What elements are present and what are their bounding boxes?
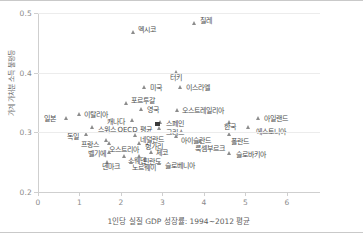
data-point-marker	[130, 118, 134, 122]
x-tick-label: 0	[28, 198, 48, 207]
x-tick-mark	[38, 192, 39, 196]
x-tick-label: 5	[235, 198, 255, 207]
x-tick-label: 2	[111, 198, 131, 207]
chart-figure: 가계 가처분 소득 불평등 0.20.30.40.5 0123456 칠레멕시코…	[0, 0, 363, 236]
data-point-marker	[256, 116, 260, 120]
x-tick-mark	[287, 192, 288, 196]
y-tick-label: 0.4	[8, 69, 32, 78]
top-divider	[0, 0, 363, 1]
data-point-label: 터키	[170, 74, 182, 82]
data-point-marker	[137, 154, 141, 158]
data-point-label: 칠레	[200, 17, 212, 25]
data-point-label: 슬로바키아	[236, 151, 266, 159]
data-point-marker	[192, 21, 196, 25]
data-point-marker	[178, 85, 182, 89]
data-point-marker	[227, 151, 231, 155]
data-point-marker	[124, 101, 128, 105]
data-point-label: 아일랜드	[264, 115, 288, 123]
data-point-label: 미국	[150, 84, 162, 92]
y-tick-label: 0.3	[8, 128, 32, 137]
x-axis-label: 1인당 실질 GDP 성장률: 1994~2012 평균	[38, 215, 320, 226]
data-point-label: 오스트레일리아	[182, 107, 224, 115]
gridline-horizontal	[38, 13, 320, 14]
data-point-label: 룩셈부르크	[195, 145, 225, 153]
gridline-horizontal	[38, 132, 320, 133]
y-tick-label: 0.2	[8, 188, 32, 197]
x-tick-mark	[79, 192, 80, 196]
data-point-label: 영국	[147, 106, 159, 114]
data-point-marker	[175, 108, 179, 112]
data-point-marker	[90, 125, 94, 129]
x-tick-mark	[121, 192, 122, 196]
data-point-label: 이탈리아	[84, 111, 108, 119]
data-point-marker	[137, 141, 141, 145]
data-point-label: 폴란드	[231, 138, 249, 146]
x-tick-label: 1	[69, 198, 89, 207]
x-tick-label: 4	[194, 198, 214, 207]
x-tick-label: 6	[277, 198, 297, 207]
data-point-label: 체코	[156, 149, 168, 157]
data-point-marker	[157, 126, 161, 130]
data-point-marker	[122, 154, 126, 158]
x-tick-mark	[245, 192, 246, 196]
data-point-marker	[131, 30, 135, 34]
gridline-horizontal	[38, 73, 320, 74]
data-point-label: 벨기에	[88, 150, 106, 158]
data-point-marker	[133, 133, 137, 137]
data-point-label: 덴마크	[102, 163, 120, 171]
data-point-label: 프랑스	[81, 141, 99, 149]
data-point-label: 이스라엘	[186, 84, 210, 92]
data-point-marker	[64, 116, 68, 120]
data-point-label: 스페인	[166, 120, 184, 128]
plot-area: 칠레멕시코터키미국이스라엘포르투갈영국오스트레일리아이탈리아일본아일랜드한국캐나…	[38, 13, 308, 192]
data-point-label: 포르투갈	[131, 97, 155, 105]
y-axis-label: 가계 가처분 소득 불평등	[6, 28, 16, 138]
data-point-marker	[174, 134, 178, 138]
data-point-marker	[142, 85, 146, 89]
y-tick-label: 0.5	[8, 9, 32, 18]
data-point-label: 독일	[67, 133, 79, 141]
data-point-marker	[139, 107, 143, 111]
x-tick-mark	[204, 192, 205, 196]
data-point-label: 한국	[224, 123, 236, 131]
data-point-label: 멕시코	[138, 26, 156, 34]
data-point-marker	[107, 141, 111, 145]
data-point-marker	[77, 112, 81, 116]
data-point-marker	[107, 150, 111, 154]
data-point-label: 노르웨이	[132, 164, 156, 172]
data-point-label: 슬로베니아	[165, 162, 195, 170]
data-point-marker	[246, 125, 250, 129]
y-axis-label-container: 가계 가처분 소득 불평등	[0, 0, 20, 236]
data-point-marker	[198, 139, 202, 143]
x-tick-mark	[162, 192, 163, 196]
data-point-label: 일본	[44, 115, 56, 123]
data-point-marker	[149, 150, 153, 154]
x-tick-label: 3	[152, 198, 172, 207]
data-point-marker	[157, 161, 161, 165]
bottom-divider	[0, 232, 363, 233]
